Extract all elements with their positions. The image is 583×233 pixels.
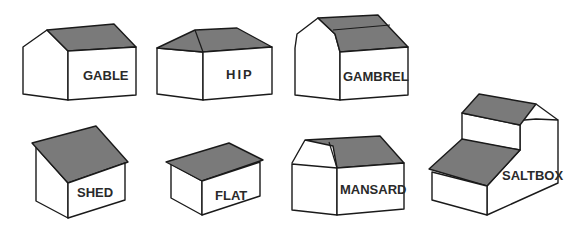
flat-house: FLAT	[166, 143, 263, 215]
saltbox-house: SALTBOX	[429, 94, 563, 215]
saltbox-gable-line	[536, 104, 558, 120]
mansard-roof	[292, 136, 404, 168]
mansard-label: MANSARD	[340, 182, 406, 197]
shed-house: SHED	[32, 126, 128, 218]
gable-house: GABLE	[23, 24, 136, 100]
saltbox-label: SALTBOX	[502, 168, 563, 183]
shed-label: SHED	[77, 185, 113, 200]
flat-label: FLAT	[215, 188, 247, 203]
gambrel-house: GAMBREL	[295, 15, 409, 100]
gambrel-label: GAMBREL	[343, 69, 409, 84]
hip-side-wall	[157, 48, 203, 100]
gable-label: GABLE	[83, 68, 129, 83]
hip-house: HIP	[157, 28, 272, 100]
mansard-house: MANSARD	[292, 136, 406, 215]
mansard-side-wall	[292, 164, 337, 215]
hip-label: HIP	[226, 67, 254, 82]
roof-types-diagram: GABLE HIP GAMBREL SHED FLAT MANSARD	[0, 0, 583, 233]
